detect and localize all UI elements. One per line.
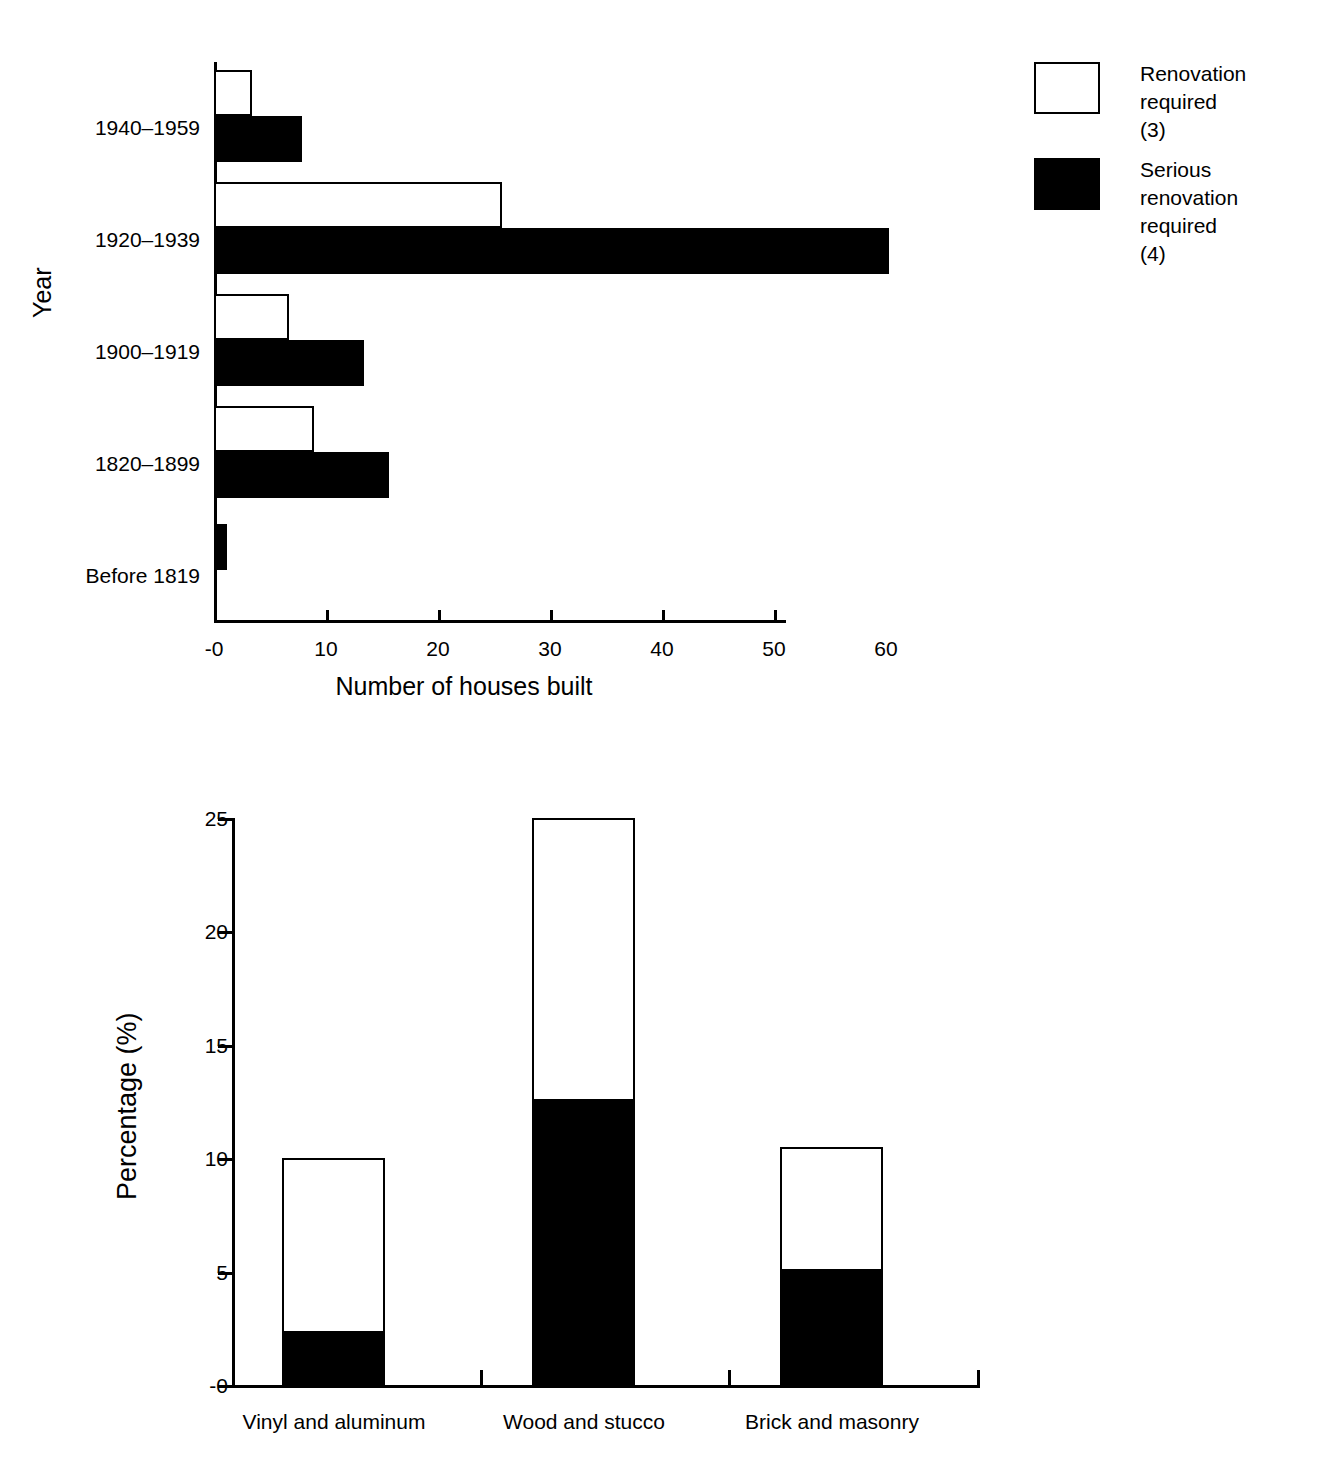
chart2-y-tick-label: 15	[168, 1034, 228, 1058]
stacked-bar-vinyl-and-aluminum	[282, 1158, 385, 1385]
bar-solid-1820-1899	[214, 452, 389, 498]
chart1-x-tick-label: 50	[744, 637, 804, 661]
chart1-category-label: 1940–1959	[20, 116, 200, 140]
chart1-x-tick	[550, 610, 553, 623]
chart2-y-tick-label: -0	[168, 1374, 228, 1398]
chart1-x-axis-title: Number of houses built	[214, 672, 714, 701]
segment-solid-wood-and-stucco	[532, 1099, 635, 1385]
chart2-y-tick-label: 25	[168, 807, 228, 831]
bar-solid-1920-1939	[214, 228, 889, 274]
chart2-y-tick-label: 10	[168, 1147, 228, 1171]
chart2-y-axis-title: Percentage (%)	[112, 1012, 143, 1200]
chart2-x-tick	[480, 1370, 483, 1388]
chart2-y-tick-label: 5	[168, 1261, 228, 1285]
bar-solid-1940-1959	[214, 116, 302, 162]
stacked-bar-wood-and-stucco	[532, 818, 635, 1385]
chart1-x-tick	[214, 610, 217, 623]
chart-percentage-by-siding: Percentage (%) -0 5 10 15 20 25	[0, 740, 1342, 1465]
legend-label: Serious renovation required (4)	[1140, 156, 1238, 268]
chart1-x-tick-label: 40	[632, 637, 692, 661]
chart1-x-tick-label: -0	[184, 637, 244, 661]
bar-open-1820-1899	[214, 406, 314, 452]
chart2-x-axis-line	[232, 1385, 980, 1388]
bar-solid-1900-1919	[214, 340, 364, 386]
chart1-category-label: 1820–1899	[20, 452, 200, 476]
chart2-x-tick	[977, 1370, 980, 1388]
chart1-x-axis-line	[214, 620, 786, 623]
bar-open-1900-1919	[214, 294, 289, 340]
chart1-plot-area: -0 10 20 30 40 50 60	[214, 62, 714, 620]
chart1-x-tick	[774, 610, 777, 623]
legend-swatch-open-icon	[1034, 62, 1100, 114]
legend-swatch-solid-icon	[1034, 158, 1100, 210]
bar-open-1940-1959	[214, 70, 252, 116]
bar-open-1920-1939	[214, 182, 502, 228]
stacked-bar-brick-and-masonry	[780, 1147, 883, 1385]
segment-solid-vinyl-and-aluminum	[282, 1331, 385, 1385]
chart1-x-tick	[326, 610, 329, 623]
chart1-x-tick-label: 20	[408, 637, 468, 661]
chart1-x-tick	[438, 610, 441, 623]
chart2-category-label: Vinyl and aluminum	[204, 1410, 464, 1434]
chart1-x-tick-label: 30	[520, 637, 580, 661]
chart-houses-built: Year -0 10 20 30 40 50 60 1940–1959 192	[0, 0, 1342, 740]
chart1-x-tick-label: 10	[296, 637, 356, 661]
legend-label: Renovation required (3)	[1140, 60, 1246, 144]
chart1-x-tick-label: 60	[856, 637, 916, 661]
chart2-y-tick-label: 20	[168, 920, 228, 944]
chart1-category-label: 1900–1919	[20, 340, 200, 364]
chart2-y-axis-line	[232, 818, 235, 1388]
chart1-category-label: Before 1819	[20, 564, 200, 588]
chart1-x-tick	[662, 610, 665, 623]
chart2-category-label: Brick and masonry	[702, 1410, 962, 1434]
chart2-category-label: Wood and stucco	[454, 1410, 714, 1434]
chart1-y-axis-title: Year	[28, 267, 57, 318]
bar-solid-before-1819	[214, 524, 227, 570]
segment-solid-brick-and-masonry	[780, 1269, 883, 1385]
chart2-plot-area: -0 5 10 15 20 25 Vinyl and aluminum Wood…	[232, 818, 980, 1388]
chart1-category-label: 1920–1939	[20, 228, 200, 252]
chart2-x-tick	[728, 1370, 731, 1388]
